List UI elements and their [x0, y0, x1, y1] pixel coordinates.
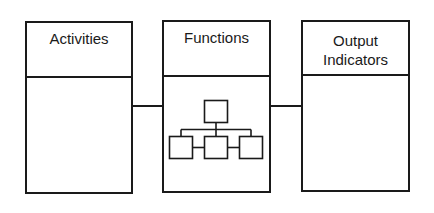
activities-box: Activities [25, 21, 133, 194]
hierarchy-org-chart-icon [168, 96, 268, 166]
functions-header: Functions [164, 22, 269, 77]
functions-title: Functions [184, 28, 249, 47]
activities-header: Activities [27, 23, 131, 78]
output-indicators-box: Output Indicators [301, 20, 410, 192]
output-indicators-header: Output Indicators [303, 22, 408, 76]
output-indicators-title-line1: Output [333, 31, 378, 50]
connector-functions-output [270, 105, 302, 107]
connector-activities-functions [132, 105, 163, 107]
activities-title: Activities [49, 29, 108, 48]
output-indicators-title-line2: Indicators [323, 50, 388, 69]
